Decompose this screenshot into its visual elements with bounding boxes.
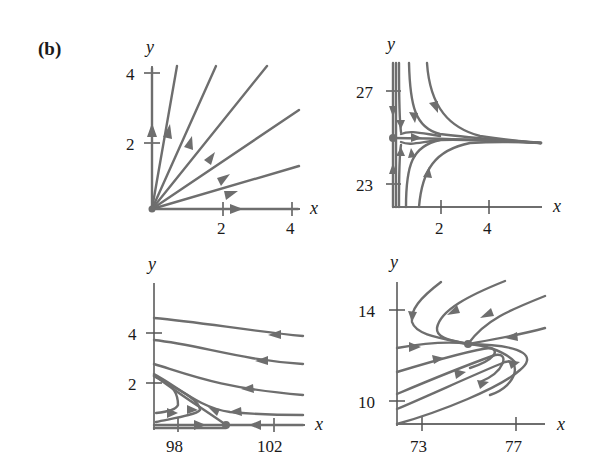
y-tick-label: 23 <box>356 176 373 195</box>
y-tick-label: 4 <box>126 65 135 84</box>
x-tick-label: 73 <box>410 437 427 456</box>
equilibrium-point <box>149 206 156 213</box>
arrow-icon <box>255 356 268 365</box>
panel-bottom-right: 14 10 73 77 y x <box>358 252 565 456</box>
x-tick-label: 4 <box>286 219 295 238</box>
arrow-icon <box>230 204 243 214</box>
equilibrium-point <box>464 340 472 348</box>
panel-bottom-left: 4 2 98 102 y x <box>128 254 323 456</box>
arrow-icon <box>429 101 438 113</box>
arrow-icon <box>249 420 261 430</box>
phase-portraits: 4 2 2 4 y x 27 23 2 4 y x <box>0 0 597 471</box>
x-axis-label: x <box>552 196 561 216</box>
arrow-icon <box>408 311 417 322</box>
arrow-icon <box>184 136 193 150</box>
x-tick-label: 2 <box>435 219 444 238</box>
y-tick-label: 27 <box>356 83 374 102</box>
arrow-icon <box>408 148 416 158</box>
y-axis-label: y <box>144 37 154 57</box>
arrow-icon <box>454 369 466 379</box>
arrow-icon <box>480 308 494 318</box>
y-tick-label: 2 <box>126 135 135 154</box>
y-axis-label: y <box>385 34 395 54</box>
y-tick-label: 14 <box>358 302 376 321</box>
equilibrium-point <box>389 134 397 142</box>
panel-top-left: 4 2 2 4 y x <box>126 37 318 238</box>
x-tick-label: 98 <box>166 437 183 456</box>
arrow-icon <box>241 384 254 393</box>
arrow-icon <box>204 152 215 165</box>
y-tick-label: 4 <box>128 325 137 344</box>
y-axis-label: y <box>388 252 398 272</box>
arrow-icon <box>409 112 418 123</box>
y-tick-label: 2 <box>128 375 137 394</box>
y-axis-label: y <box>146 254 156 274</box>
arrow-icon <box>147 123 157 137</box>
arrow-icon <box>411 133 422 142</box>
x-tick-label: 102 <box>257 437 283 456</box>
arrow-icon <box>396 120 405 129</box>
x-tick-label: 4 <box>483 219 492 238</box>
x-axis-label: x <box>556 414 565 434</box>
x-axis-label: x <box>314 414 323 434</box>
panel-top-right: 27 23 2 4 y x <box>356 34 561 238</box>
x-axis-label: x <box>309 198 318 218</box>
arrow-icon <box>396 147 405 156</box>
arrow-icon <box>217 174 230 186</box>
x-tick-label: 2 <box>217 219 226 238</box>
x-tick-label: 77 <box>505 437 523 456</box>
arrow-icon <box>229 407 242 416</box>
y-tick-label: 10 <box>358 393 375 412</box>
arrow-icon <box>224 191 238 200</box>
arrow-icon <box>477 380 489 389</box>
arrow-icon <box>423 167 432 178</box>
equilibrium-point <box>222 421 230 429</box>
